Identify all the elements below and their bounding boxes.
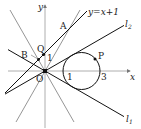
- point-p-label: P: [98, 51, 104, 61]
- line-l2-label: l2: [125, 19, 132, 30]
- origin-dot: [43, 69, 47, 73]
- gray-line-positive-slope: [16, 10, 80, 122]
- y-intercept-label: 1: [47, 53, 53, 63]
- point-p-dot: [94, 58, 97, 61]
- circle-intercept-3-label: 3: [101, 72, 107, 82]
- line-y-eq-x-plus-1-label: y=x+1: [87, 7, 119, 17]
- y-axis-label: y: [37, 2, 44, 12]
- coordinate-diagram: y x O A B Q P 1 1 3 y=x+1 l2 l1: [0, 0, 141, 129]
- circle-intercept-1-label: 1: [67, 72, 73, 82]
- origin-label: O: [36, 74, 43, 84]
- point-q-label: Q: [37, 44, 44, 54]
- line-l1-label: l1: [126, 114, 133, 125]
- point-b-label: B: [21, 50, 28, 60]
- point-a-label: A: [59, 21, 67, 31]
- point-b-dot: [37, 58, 40, 61]
- x-axis-label: x: [130, 72, 135, 82]
